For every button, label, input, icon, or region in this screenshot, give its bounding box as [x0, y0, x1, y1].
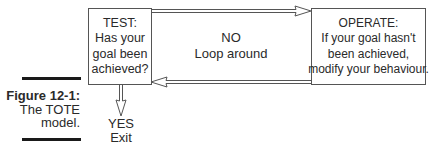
- exit-label: YES Exit: [101, 117, 141, 145]
- operate-line: been achieved,: [328, 47, 409, 63]
- figure-label: Figure 12-1:: [6, 89, 80, 103]
- exit-text: Exit: [101, 131, 141, 145]
- loop-around: Loop around: [186, 46, 276, 62]
- caption-line: model.: [6, 116, 80, 130]
- operate-box: OPERATE: If your goal hasn't been achiev…: [311, 8, 426, 85]
- caption-line: The TOTE: [6, 103, 80, 117]
- test-line: Has your: [95, 31, 145, 47]
- arrow-test-to-operate: [151, 6, 311, 16]
- test-line: goal been: [93, 47, 148, 63]
- arrow-test-to-exit: [116, 84, 126, 116]
- loop-no: NO: [186, 30, 276, 46]
- loop-label: NO Loop around: [186, 30, 276, 61]
- operate-line: If your goal hasn't: [321, 31, 415, 47]
- operate-line: modify your behaviour.: [308, 62, 429, 78]
- exit-yes: YES: [101, 117, 141, 131]
- operate-title: OPERATE:: [339, 16, 399, 32]
- figure-caption: Figure 12-1: The TOTE model.: [6, 89, 80, 130]
- test-title: TEST:: [103, 16, 137, 32]
- test-line: achieved?: [92, 62, 149, 78]
- arrow-operate-to-test: [151, 77, 311, 87]
- test-box: TEST: Has your goal been achieved?: [88, 8, 152, 85]
- caption-top-rule: [22, 77, 81, 80]
- caption-bottom-rule: [22, 138, 81, 141]
